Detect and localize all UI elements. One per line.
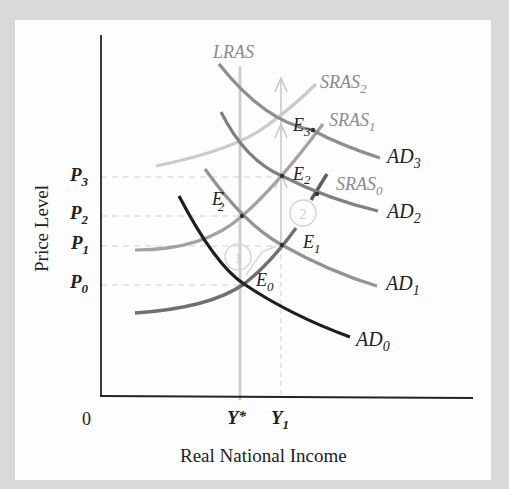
sras0-label: SRAS0 [336,174,383,198]
y1-label: Y1 [271,407,289,432]
x-axis [100,396,473,398]
e3-point [311,128,315,132]
e2-label: E2 [292,164,311,187]
e2-prime-label: E'2 [211,188,225,214]
p1-label: P1 [70,232,89,257]
e1-point [280,243,284,247]
sras0-ad2-point [315,192,319,196]
ad2-label: AD2 [385,200,421,226]
p2-label: P2 [69,202,89,227]
price-guides [101,177,282,285]
sras1-label: SRAS1 [329,110,376,134]
ad1-label: AD1 [384,272,420,298]
y-axis-title: Price Level [31,185,52,272]
e3-label: E3 [292,115,311,139]
step-1-marker: 1 [225,244,251,270]
ad3-label: AD3 [385,145,421,171]
step-2-label: 2 [299,206,307,222]
price-rise-arrows [275,78,287,243]
e2-prime-point [240,214,244,218]
step-2-marker: 2 [290,200,316,226]
x-axis-title: Real National Income [180,445,347,466]
e1-label: E1 [302,232,321,256]
e2-point [280,174,284,178]
lras-label: LRAS [212,42,254,62]
ad-as-diagram: 1 2 LRAS SRAS2 SRAS1 SRAS0 AD3 AD2 AD1 A… [0,0,509,489]
sras2-label: SRAS2 [320,72,367,96]
y-star-label: Y* [227,407,247,428]
ad0-label: AD0 [354,328,390,354]
step-1-label: 1 [234,250,242,266]
e0-label: E0 [255,270,274,294]
origin-label: 0 [82,409,91,429]
e0-point [242,282,246,286]
p3-label: P3 [69,164,89,189]
p0-label: P0 [69,271,89,296]
